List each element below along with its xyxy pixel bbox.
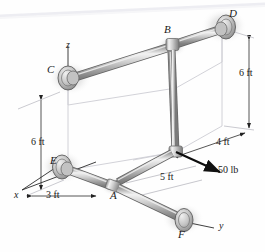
dim-label-left-6ft: 6 ft: [31, 137, 45, 147]
dim-label-5ft: 5 ft: [160, 172, 174, 182]
dim-right-6ft: [224, 30, 254, 130]
axis-label-x: x: [14, 190, 18, 200]
joint-b-collar: [166, 39, 179, 51]
force-label-50lb: 50 lb: [218, 165, 238, 175]
pipe-assembly-figure: z x y B D C E A F 6 ft 6 ft 4 ft 5 ft 3 …: [0, 0, 265, 252]
joint-label-d: D: [229, 8, 237, 19]
dim-label-4ft: 4 ft: [216, 137, 230, 147]
pipe-af: [118, 186, 181, 218]
joint-label-a: A: [110, 190, 117, 201]
pipe-cb: [72, 45, 170, 78]
dim-label-3ft: 3 ft: [46, 190, 60, 200]
joint-label-b: B: [164, 24, 171, 35]
joint-label-f: F: [178, 229, 185, 240]
figure-canvas: [0, 0, 265, 252]
joint-label-e: E: [50, 155, 57, 166]
axis-label-z: z: [66, 40, 70, 50]
pipe-vertical: [170, 50, 175, 152]
dim-label-right-6ft: 6 ft: [239, 68, 253, 78]
joint-label-c: C: [47, 64, 54, 75]
axis-label-y: y: [219, 221, 223, 231]
